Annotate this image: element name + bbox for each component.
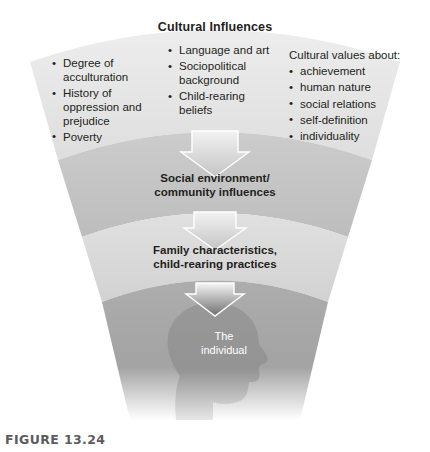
list-item: Poverty (52, 131, 156, 145)
band-label-line: individual (9, 344, 430, 358)
band-label-family-characteristics: Family characteristics, child-rearing pr… (0, 243, 430, 272)
list-item: individuality (289, 130, 421, 144)
figure-container: Cultural Influences Degree of acculturat… (0, 0, 430, 452)
page-title: Cultural Influences (0, 20, 430, 35)
column-right: Cultural values about: achievement human… (289, 49, 421, 147)
list-item: social relations (289, 98, 421, 112)
band-label-line: community influences (0, 185, 430, 199)
column-middle: Language and art Sociopolitical backgrou… (168, 44, 280, 120)
figure-caption: FIGURE 13.24 (5, 432, 105, 447)
column-left: Degree of acculturation History of oppre… (52, 57, 156, 147)
band-label-line: Family characteristics, (0, 243, 430, 257)
list-item: self-definition (289, 114, 421, 128)
list-item: History of oppression and prejudice (52, 87, 156, 128)
band-label-line: Social environment/ (0, 171, 430, 185)
list-item: Child-rearing beliefs (168, 90, 280, 118)
bullet-list-left: Degree of acculturation History of oppre… (52, 57, 156, 145)
list-item: Degree of acculturation (52, 57, 156, 85)
band-label-line: The (9, 330, 430, 344)
band-label-social-environment: Social environment/ community influences (0, 171, 430, 200)
list-item: human nature (289, 81, 421, 95)
list-item: Language and art (168, 44, 280, 58)
bullet-list-middle: Language and art Sociopolitical backgrou… (168, 44, 280, 118)
list-item: Sociopolitical background (168, 60, 280, 88)
band-label-individual: The individual (9, 330, 430, 358)
band-label-line: child-rearing practices (0, 257, 430, 271)
list-item: achievement (289, 65, 421, 79)
cultural-values-heading: Cultural values about: (289, 49, 421, 63)
bullet-list-right: achievement human nature social relation… (289, 65, 421, 144)
